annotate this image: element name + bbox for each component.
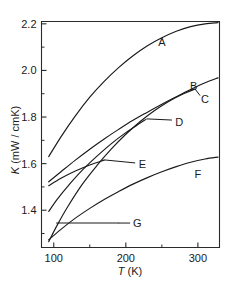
curve-label-a: A bbox=[158, 36, 166, 48]
curve-e bbox=[49, 160, 104, 186]
figure-container: 1002003001.41.61.82.02.2 ABCDEFG T (K) K… bbox=[0, 0, 234, 298]
curve-label-d: D bbox=[175, 116, 183, 128]
y-tick-label: 2.2 bbox=[21, 18, 36, 30]
x-tick-label: 100 bbox=[45, 252, 63, 264]
curve-c bbox=[49, 89, 195, 242]
axis-ticks bbox=[42, 24, 198, 248]
y-tick-label: 2.0 bbox=[21, 64, 36, 76]
leader-line-e bbox=[104, 160, 135, 163]
y-tick-label: 1.6 bbox=[21, 158, 36, 170]
y-axis-title: K (mW / cmK) bbox=[9, 106, 21, 174]
curve-label-g: G bbox=[133, 217, 142, 229]
line-chart: 1002003001.41.61.82.02.2 ABCDEFG T (K) K… bbox=[0, 0, 234, 298]
curve-label-b: B bbox=[190, 80, 197, 92]
curve-label-c: C bbox=[201, 93, 209, 105]
curve-b bbox=[49, 78, 218, 182]
curve-label-e: E bbox=[139, 158, 146, 170]
x-tick-label: 200 bbox=[117, 252, 135, 264]
y-tick-label: 1.4 bbox=[21, 204, 36, 216]
x-axis-title: T (K) bbox=[118, 265, 142, 277]
data-curves bbox=[49, 23, 218, 242]
leader-line-d bbox=[147, 119, 172, 120]
y-tick-label: 1.8 bbox=[21, 111, 36, 123]
curve-labels: ABCDEFG bbox=[133, 36, 209, 229]
curve-label-f: F bbox=[195, 168, 202, 180]
x-tick-label: 300 bbox=[189, 252, 207, 264]
plot-frame bbox=[42, 21, 221, 248]
